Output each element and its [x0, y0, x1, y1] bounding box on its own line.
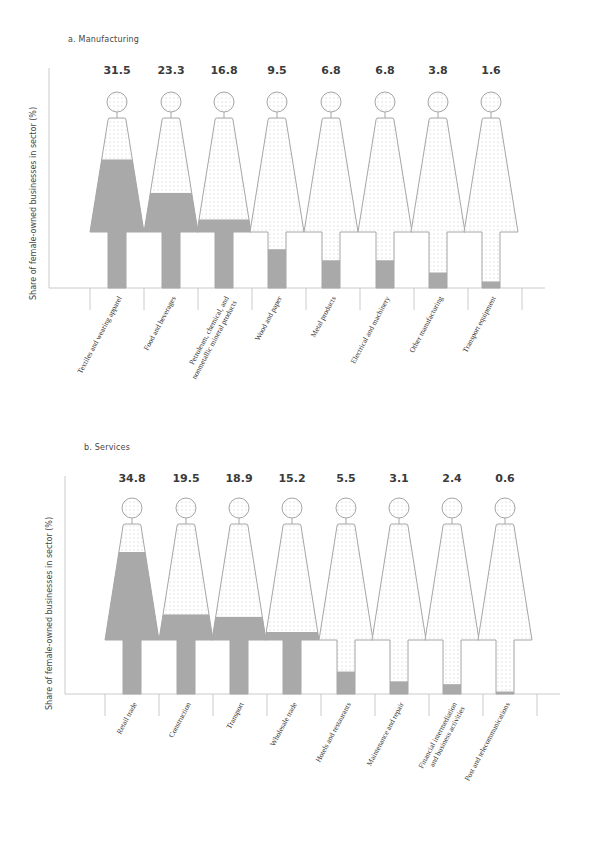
category-label: Maintenance and repair [365, 700, 406, 767]
figure-fill [157, 614, 215, 694]
figure-1-3: 15.2Wholesale trade [263, 472, 321, 748]
figure-fill [142, 193, 200, 288]
category-label: Hotels and restaurants [314, 701, 353, 764]
figure-0-4: 6.8Metal products [302, 64, 360, 339]
figure-1-4: 5.5Hotels and restaurants [314, 472, 375, 764]
figure-0-1: 23.3Food and beverages [142, 64, 200, 352]
services-chart: 34.8Retail trade19.5Construction18.9Tran… [65, 472, 560, 783]
figure-body-icon [319, 524, 373, 694]
figure-head-icon [267, 92, 287, 112]
figure-fill [302, 260, 360, 288]
figure-body-icon [425, 524, 479, 694]
figure-0-5: 6.8Electrical and machinery [349, 64, 414, 365]
figure-1-0: 34.8Retail trade [103, 472, 161, 736]
category-label: Transport [224, 700, 246, 731]
figure-head-icon [176, 498, 196, 518]
value-label: 0.6 [495, 472, 515, 485]
value-label: 31.5 [103, 64, 130, 77]
figure-0-6: 3.8Other manufacturing [407, 64, 467, 354]
category-label: Metal products [309, 295, 338, 339]
manufacturing-chart: 31.5Textiles and wearing apparel23.3Food… [49, 64, 545, 381]
figure-1-5: 3.1Maintenance and repair [365, 472, 428, 767]
figure-body-icon [478, 524, 532, 694]
figure-fill [370, 681, 428, 694]
value-label: 15.2 [278, 472, 305, 485]
value-label: 6.8 [375, 64, 395, 77]
figure-fill [356, 260, 414, 288]
value-label: 3.8 [428, 64, 448, 77]
figure-head-icon [107, 92, 127, 112]
figure-1-1: 19.5Construction [157, 472, 215, 739]
figure-fill [248, 249, 306, 288]
category-label: Textiles and wearing apparel [75, 295, 123, 375]
figure-0-0: 31.5Textiles and wearing apparel [75, 64, 146, 375]
figure-fill [210, 617, 268, 694]
category-label: Construction [167, 700, 193, 739]
value-label: 23.3 [157, 64, 184, 77]
figure-1-2: 18.9Transport [210, 472, 268, 730]
figure-fill [103, 552, 161, 694]
figure-fill [409, 272, 467, 288]
value-label: 6.8 [321, 64, 341, 77]
value-label: 1.6 [481, 64, 501, 77]
figure-head-icon [375, 92, 395, 112]
figure-head-icon [481, 92, 501, 112]
figure-head-icon [495, 498, 515, 518]
category-label: Other manufacturing [407, 294, 444, 354]
figure-fill [423, 684, 481, 694]
value-label: 9.5 [267, 64, 287, 77]
category-label: Wholesale trade [268, 700, 299, 748]
value-label: 2.4 [442, 472, 462, 485]
figure-0-3: 9.5Wood and paper [248, 64, 306, 342]
figure-body-icon [411, 118, 465, 288]
pictogram-chart: 31.5Textiles and wearing apparel23.3Food… [0, 0, 612, 842]
figure-body-icon [464, 118, 518, 288]
figure-fill [462, 281, 520, 288]
value-label: 18.9 [225, 472, 252, 485]
figure-fill [195, 219, 253, 288]
category-label: Retail trade [114, 700, 139, 736]
figure-fill [317, 672, 375, 694]
figure-fill [88, 159, 146, 288]
figure-head-icon [442, 498, 462, 518]
value-label: 34.8 [118, 472, 145, 485]
figure-head-icon [229, 498, 249, 518]
figure-head-icon [214, 92, 234, 112]
value-label: 5.5 [336, 472, 356, 485]
category-label: Food and beverages [142, 295, 178, 352]
figure-head-icon [336, 498, 356, 518]
figure-1-6: 2.4Financial intermediationand business … [416, 472, 481, 774]
figure-head-icon [321, 92, 341, 112]
category-label: Electrical and machinery [349, 295, 392, 366]
figure-head-icon [389, 498, 409, 518]
figure-body-icon [372, 524, 426, 694]
figure-head-icon [282, 498, 302, 518]
value-label: 19.5 [172, 472, 199, 485]
category-label: Wood and paper [253, 294, 284, 342]
category-label: Petroleum, chemical, andnonmetallic mine… [182, 295, 239, 381]
category-label: Transport equipment [461, 294, 499, 354]
category-label: Post and telecommunications [463, 701, 512, 783]
figure-head-icon [161, 92, 181, 112]
figure-head-icon [428, 92, 448, 112]
figure-head-icon [122, 498, 142, 518]
figure-0-7: 1.6Transport equipment [461, 64, 520, 354]
value-label: 3.1 [389, 472, 409, 485]
value-label: 16.8 [210, 64, 237, 77]
category-label: Financial intermediationand business act… [416, 701, 467, 775]
figure-fill [263, 632, 321, 694]
